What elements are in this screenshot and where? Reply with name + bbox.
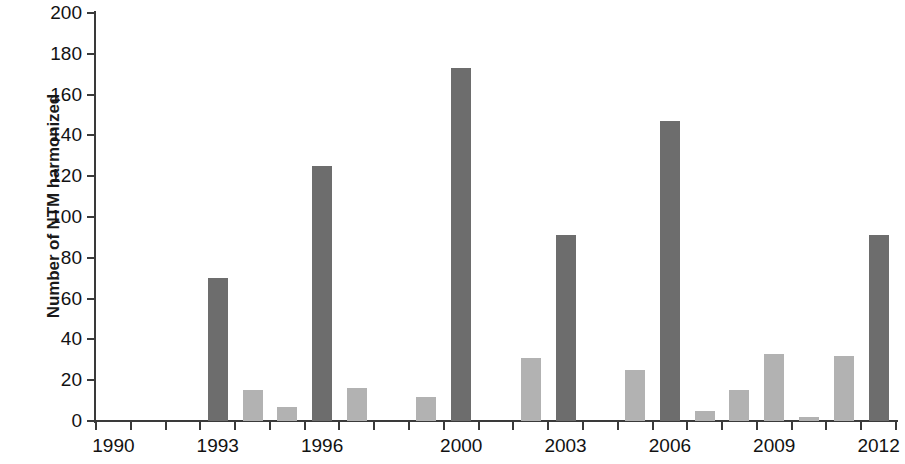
x-axis-label: 2009 — [729, 436, 819, 455]
bar-1993 — [208, 278, 228, 421]
x-axis-label: 2012 — [834, 436, 905, 455]
y-axis-label: 140 — [30, 125, 82, 144]
bar-2005 — [625, 370, 645, 421]
y-axis-label: 120 — [30, 166, 82, 185]
x-axis-label: 1993 — [173, 436, 263, 455]
x-axis-tick — [756, 421, 758, 430]
x-axis-tick — [547, 421, 549, 430]
x-axis-tick — [130, 421, 132, 430]
y-axis-tick — [87, 53, 95, 55]
x-axis-tick — [269, 421, 271, 430]
x-axis-tick — [860, 421, 862, 430]
bar-2008 — [729, 390, 749, 421]
y-axis-label: 180 — [30, 44, 82, 63]
bar-2011 — [834, 356, 854, 421]
bar-1996 — [312, 166, 332, 421]
x-axis-tick — [408, 421, 410, 430]
bar-1994 — [243, 390, 263, 421]
y-axis-label: 60 — [30, 289, 82, 308]
bar-2012 — [869, 235, 889, 421]
x-axis-tick — [95, 421, 97, 430]
x-axis-tick — [686, 421, 688, 430]
y-axis-label: 200 — [30, 3, 82, 22]
x-axis-tick — [165, 421, 167, 430]
y-axis-label: 0 — [30, 411, 82, 430]
bars-layer — [96, 13, 896, 421]
bar-1999 — [416, 397, 436, 421]
x-axis-label: 1990 — [68, 436, 158, 455]
x-axis-tick — [512, 421, 514, 430]
y-axis-tick — [87, 175, 95, 177]
bar-1997 — [347, 388, 367, 421]
bar-2000 — [451, 68, 471, 421]
x-axis-tick — [895, 421, 897, 430]
y-axis-label: 100 — [30, 207, 82, 226]
x-axis-label: 2000 — [416, 436, 506, 455]
bar-2007 — [695, 411, 715, 421]
bar-1995 — [277, 407, 297, 421]
y-axis-tick — [87, 12, 95, 14]
x-axis-label: 2006 — [625, 436, 715, 455]
y-axis-tick — [87, 338, 95, 340]
y-axis-label: 80 — [30, 248, 82, 267]
y-axis-tick — [87, 298, 95, 300]
y-axis-label: 40 — [30, 329, 82, 348]
x-axis-tick — [721, 421, 723, 430]
bar-2002 — [521, 358, 541, 421]
x-axis-label: 1996 — [277, 436, 367, 455]
y-axis-tick — [87, 379, 95, 381]
y-axis-tick — [87, 216, 95, 218]
x-axis-tick — [304, 421, 306, 430]
x-axis-tick — [582, 421, 584, 430]
x-axis-label: 2003 — [521, 436, 611, 455]
y-axis-label: 160 — [30, 85, 82, 104]
bar-chart: Number of NTM harmonized 020406080100120… — [0, 0, 905, 464]
x-axis-tick — [443, 421, 445, 430]
bar-2009 — [764, 354, 784, 421]
x-axis-tick — [199, 421, 201, 430]
y-axis-tick — [87, 420, 95, 422]
x-axis-tick — [652, 421, 654, 430]
x-axis-tick — [234, 421, 236, 430]
y-axis-tick — [87, 257, 95, 259]
x-axis-tick — [338, 421, 340, 430]
y-axis-tick — [87, 134, 95, 136]
bar-2010 — [799, 417, 819, 421]
x-axis-tick — [825, 421, 827, 430]
x-axis-tick — [791, 421, 793, 430]
x-axis-tick — [373, 421, 375, 430]
x-axis-tick — [478, 421, 480, 430]
x-axis-tick — [617, 421, 619, 430]
y-axis-tick — [87, 94, 95, 96]
bar-2006 — [660, 121, 680, 421]
bar-2003 — [556, 235, 576, 421]
y-axis-label: 20 — [30, 370, 82, 389]
